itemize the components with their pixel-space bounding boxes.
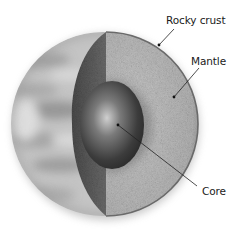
core-label: Core — [202, 185, 226, 197]
mantle-label: Mantle — [191, 55, 226, 67]
planet-cross-section-illustration — [0, 0, 242, 239]
crust-pointer-dot — [158, 44, 161, 47]
crust-leader-line — [159, 29, 174, 45]
mantle-pointer-dot — [173, 96, 176, 99]
core-pointer-dot — [117, 124, 120, 127]
planet-diagram: Rocky crust Mantle Core — [0, 0, 242, 239]
rocky-crust-label: Rocky crust — [166, 14, 226, 26]
